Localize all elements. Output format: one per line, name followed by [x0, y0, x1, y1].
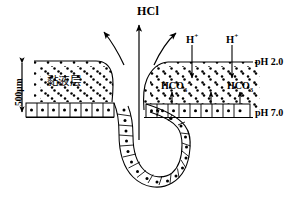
diagram-canvas	[0, 0, 296, 202]
epithelial-cell-layer-left	[26, 103, 114, 118]
gastric-mucosal-barrier-diagram: HCl H+ H+ HCO3- HCO3- pH 2.0 pH 7.0 黏液层 …	[0, 0, 296, 202]
hcl-left-curved-arrow	[104, 32, 124, 65]
hcl-label: HCl	[0, 5, 296, 17]
bicarbonate-label-left: HCO3-	[161, 80, 189, 94]
mucus-layer-label: 黏液层	[47, 76, 81, 88]
epithelial-cell-layer-right	[146, 104, 250, 118]
scale-label: 500μm	[15, 78, 25, 106]
hydrogen-ion-label-right: H+	[226, 33, 238, 45]
ph-7-label: pH 7.0	[255, 108, 283, 118]
hcl-right-curved-arrow	[154, 33, 176, 65]
bicarbonate-label-right: HCO3-	[227, 80, 255, 94]
ph-2-label: pH 2.0	[255, 57, 283, 67]
scale-bar-group: 500μm	[13, 58, 27, 108]
hydrogen-ion-label-left: H+	[186, 33, 198, 45]
